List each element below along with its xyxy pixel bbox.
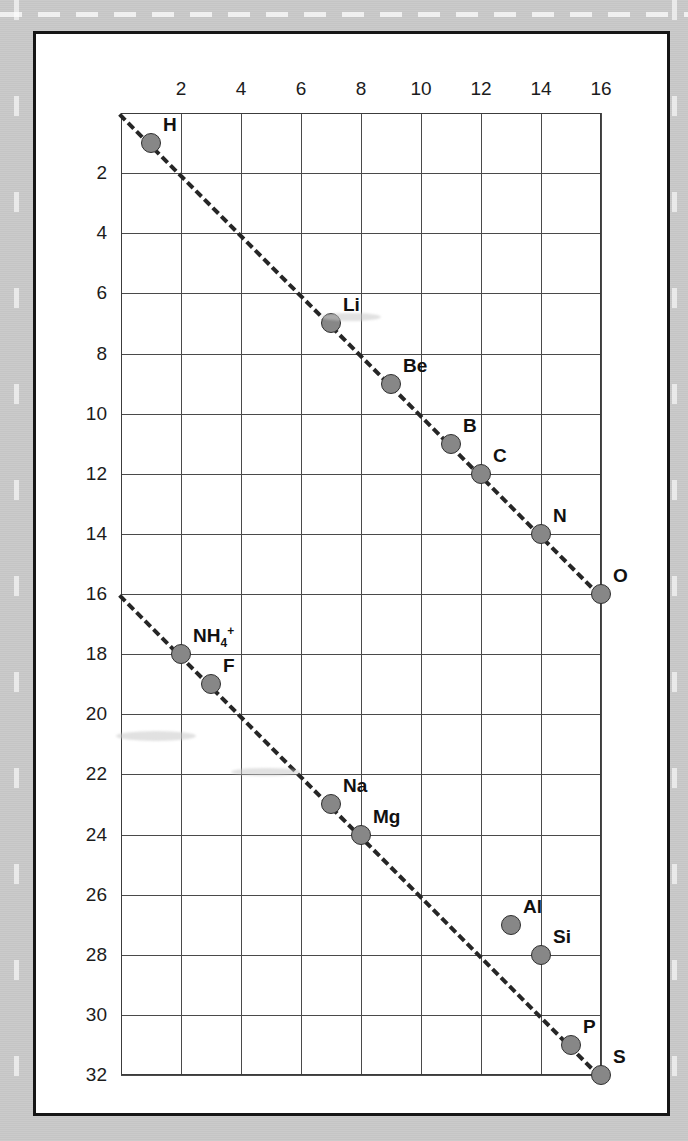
data-point-h[interactable] xyxy=(141,133,161,153)
y-tick-label: 28 xyxy=(86,944,107,966)
y-tick-label: 4 xyxy=(96,222,107,244)
data-point-n[interactable] xyxy=(531,524,551,544)
data-point-label-mg: Mg xyxy=(373,806,400,828)
data-point-label-si: Si xyxy=(553,926,571,948)
y-tick-label: 30 xyxy=(86,1004,107,1026)
data-point-o[interactable] xyxy=(591,584,611,604)
data-point-label-be: Be xyxy=(403,355,427,377)
y-tick-label: 6 xyxy=(96,282,107,304)
data-point-label-p: P xyxy=(583,1016,596,1038)
x-tick-label: 12 xyxy=(470,78,491,100)
data-point-label-n: N xyxy=(553,505,567,527)
data-point-b[interactable] xyxy=(441,434,461,454)
scan-smudge xyxy=(321,313,381,321)
data-point-label-s: S xyxy=(613,1046,626,1068)
figure-card: 246810121416 246810121416182022242628303… xyxy=(33,31,670,1116)
y-tick-label: 16 xyxy=(86,583,107,605)
data-point-s[interactable] xyxy=(591,1065,611,1085)
data-point-be[interactable] xyxy=(381,374,401,394)
scan-smudge xyxy=(231,768,301,776)
data-point-label-al: Al xyxy=(523,896,542,918)
y-tick-label: 26 xyxy=(86,884,107,906)
y-tick-label: 20 xyxy=(86,703,107,725)
margin-dash-guide-top xyxy=(0,12,688,17)
y-tick-label: 24 xyxy=(86,824,107,846)
data-point-p[interactable] xyxy=(561,1035,581,1055)
y-tick-label: 14 xyxy=(86,523,107,545)
x-tick-label: 8 xyxy=(356,78,367,100)
margin-dash-guide-right xyxy=(672,0,677,1141)
data-point-label-o: O xyxy=(613,565,628,587)
data-point-label-nh4: NH4+ xyxy=(193,625,234,647)
y-tick-label: 12 xyxy=(86,463,107,485)
data-point-label-na: Na xyxy=(343,775,367,797)
data-point-label-c: C xyxy=(493,445,507,467)
y-tick-label: 32 xyxy=(86,1064,107,1086)
data-point-c[interactable] xyxy=(471,464,491,484)
margin-dash-guide-left xyxy=(14,0,19,1141)
y-tick-label: 10 xyxy=(86,403,107,425)
y-tick-label: 2 xyxy=(96,162,107,184)
y-tick-label: 22 xyxy=(86,763,107,785)
x-tick-label: 10 xyxy=(410,78,431,100)
gridline-horizontal xyxy=(121,1075,601,1076)
data-point-label-b: B xyxy=(463,415,477,437)
data-point-si[interactable] xyxy=(531,945,551,965)
x-tick-label: 2 xyxy=(176,78,187,100)
scatter-plot: 246810121416 246810121416182022242628303… xyxy=(121,113,601,1075)
data-point-mg[interactable] xyxy=(351,825,371,845)
x-tick-label: 16 xyxy=(590,78,611,100)
x-tick-label: 14 xyxy=(530,78,551,100)
data-point-label-h: H xyxy=(163,114,177,136)
figure-page: 246810121416 246810121416182022242628303… xyxy=(0,0,688,1141)
y-tick-label: 18 xyxy=(86,643,107,665)
data-point-nh4[interactable] xyxy=(171,644,191,664)
data-point-al[interactable] xyxy=(501,915,521,935)
y-tick-label: 8 xyxy=(96,343,107,365)
scan-smudge xyxy=(116,731,196,741)
x-tick-label: 4 xyxy=(236,78,247,100)
data-point-label-f: F xyxy=(223,655,235,677)
x-tick-label: 6 xyxy=(296,78,307,100)
plot-frame xyxy=(121,113,601,1075)
